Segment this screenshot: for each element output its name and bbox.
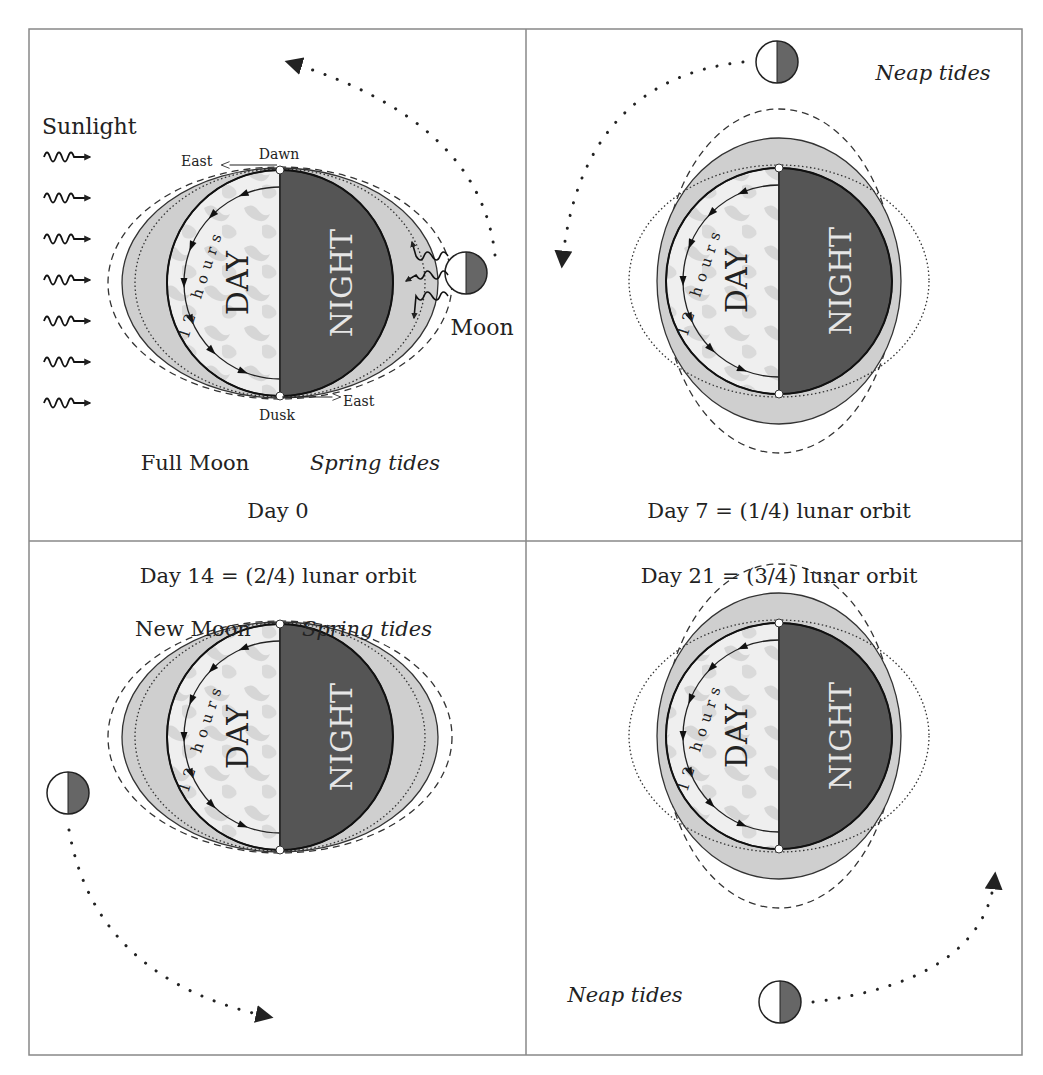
sunlight-wave-icon bbox=[44, 235, 90, 244]
dusk-marker bbox=[775, 845, 783, 853]
east-label-top: East bbox=[181, 153, 213, 169]
panel-caption: Day 7 = (1/4) lunar orbit bbox=[647, 499, 911, 523]
moon-dark-half bbox=[777, 41, 798, 83]
tides-diagram: 12 hoursDAYNIGHTDay 0Full MoonSpring tid… bbox=[0, 0, 1043, 1075]
day-label: DAY bbox=[719, 703, 754, 769]
moon-dark-half bbox=[780, 981, 801, 1023]
dusk-marker bbox=[276, 846, 284, 854]
sunlight-wave-icon bbox=[44, 276, 90, 285]
day-label: DAY bbox=[220, 704, 255, 770]
night-label: NIGHT bbox=[324, 683, 359, 791]
moon-phase-label: Full Moon bbox=[141, 451, 250, 475]
moon-lit-half bbox=[759, 981, 780, 1023]
dawn-marker bbox=[276, 620, 284, 628]
sunlight-wave-icon bbox=[44, 399, 90, 408]
night-label: NIGHT bbox=[823, 227, 858, 335]
panel-day7: 12 hoursDAYNIGHTDay 7 = (1/4) lunar orbi… bbox=[562, 41, 991, 523]
moon-dark-half bbox=[466, 252, 487, 294]
tide-type-label: Neap tides bbox=[566, 983, 682, 1007]
night-label: NIGHT bbox=[823, 682, 858, 790]
panel-caption: Day 14 = (2/4) lunar orbit bbox=[140, 564, 417, 588]
east-label-bottom: East bbox=[343, 393, 375, 409]
panel-caption: Day 0 bbox=[247, 499, 308, 523]
sunlight-wave-icon bbox=[44, 317, 90, 326]
sunlight-label: Sunlight bbox=[42, 114, 137, 139]
dawn-marker bbox=[775, 619, 783, 627]
dawn-marker bbox=[276, 166, 284, 174]
panel-caption: Day 21 = (3/4) lunar orbit bbox=[641, 564, 918, 588]
panel-frame bbox=[29, 29, 1022, 1055]
sunlight-wave-icon bbox=[44, 153, 90, 162]
orbit-direction-arrow bbox=[813, 875, 995, 1002]
day-label: DAY bbox=[719, 248, 754, 314]
panel-day0: 12 hoursDAYNIGHTDay 0Full MoonSpring tid… bbox=[42, 62, 514, 523]
panel-day14: 12 hoursDAYNIGHTDay 14 = (2/4) lunar orb… bbox=[47, 564, 452, 1017]
tide-type-label: Spring tides bbox=[310, 451, 440, 475]
dusk-label: Dusk bbox=[259, 407, 295, 423]
moon-lit-half bbox=[47, 772, 68, 814]
orbit-direction-arrow bbox=[69, 830, 270, 1017]
dusk-marker bbox=[276, 392, 284, 400]
night-label: NIGHT bbox=[324, 229, 359, 337]
moon-label: Moon bbox=[450, 315, 513, 340]
dawn-label: Dawn bbox=[259, 146, 300, 162]
day-label: DAY bbox=[220, 250, 255, 316]
moon-dark-half bbox=[68, 772, 89, 814]
moon-phase-label: New Moon bbox=[135, 617, 251, 641]
sunlight-wave-icon bbox=[44, 358, 90, 367]
dusk-marker bbox=[775, 390, 783, 398]
moon-lit-half bbox=[445, 252, 466, 294]
dawn-marker bbox=[775, 164, 783, 172]
moon-lit-half bbox=[756, 41, 777, 83]
sunlight-wave-icon bbox=[44, 194, 90, 203]
panel-day21: 12 hoursDAYNIGHTDay 21 = (3/4) lunar orb… bbox=[566, 564, 995, 1023]
tide-type-label: Neap tides bbox=[874, 61, 990, 85]
tide-type-label: Spring tides bbox=[302, 617, 432, 641]
